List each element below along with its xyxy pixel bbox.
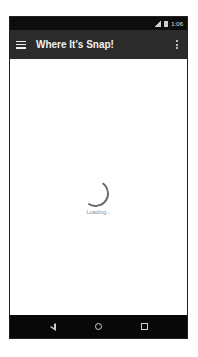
- loading-text: Loading...: [10, 209, 187, 215]
- back-icon[interactable]: [50, 323, 56, 331]
- app-toolbar: Where It's Snap!: [10, 30, 187, 59]
- more-vert-icon[interactable]: [175, 40, 179, 49]
- phone-screen: 1:06 Where It's Snap! Loading...: [9, 16, 188, 339]
- home-icon[interactable]: [95, 323, 102, 330]
- signal-icon: [155, 21, 161, 27]
- hamburger-menu-icon[interactable]: [16, 41, 26, 49]
- app-title: Where It's Snap!: [36, 39, 175, 50]
- battery-icon: [164, 21, 168, 27]
- loading-spinner-icon: [80, 178, 111, 209]
- recents-icon[interactable]: [141, 323, 148, 330]
- main-content: Loading...: [10, 59, 187, 317]
- status-bar: 1:06: [10, 17, 187, 30]
- status-time: 1:06: [171, 21, 183, 27]
- navigation-bar: [10, 315, 187, 338]
